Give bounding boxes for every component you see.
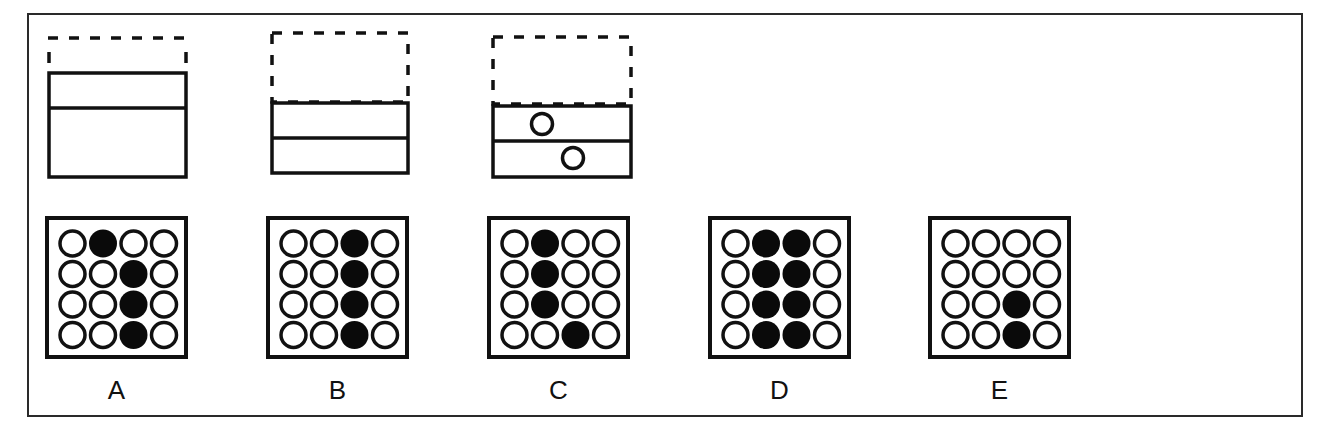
circle-row-2 [563,148,584,169]
filled-dot [783,260,811,288]
filled-dot [783,230,811,258]
stimulus-figure-2 [272,33,408,173]
option-label: A [108,375,126,405]
empty-dot [1035,323,1060,348]
empty-dot [974,231,999,256]
option-e[interactable]: E [930,218,1069,405]
empty-dot [1035,262,1060,287]
filled-dot [120,260,148,288]
empty-dot [594,262,619,287]
filled-dot [752,291,780,319]
empty-dot [373,262,398,287]
empty-dot [502,262,527,287]
filled-dot [562,321,590,349]
empty-dot [1004,231,1029,256]
filled-dot [341,260,369,288]
empty-dot [91,292,116,317]
empty-dot [312,292,337,317]
empty-dot [502,323,527,348]
empty-dot [60,323,85,348]
empty-dot [1035,231,1060,256]
filled-dot [531,230,559,258]
empty-dot [723,292,748,317]
empty-dot [974,323,999,348]
empty-dot [974,262,999,287]
empty-dot [943,292,968,317]
empty-dot [281,292,306,317]
option-a[interactable]: A [47,218,186,405]
filled-dot [89,230,117,258]
option-label: E [991,375,1008,405]
filled-dot [1003,321,1031,349]
empty-dot [312,231,337,256]
empty-dot [815,231,840,256]
empty-dot [60,262,85,287]
empty-dot [373,231,398,256]
empty-dot [723,323,748,348]
empty-dot [281,231,306,256]
empty-dot [60,231,85,256]
empty-dot [1004,262,1029,287]
empty-dot [815,292,840,317]
filled-dot [120,321,148,349]
empty-dot [943,262,968,287]
empty-dot [533,323,558,348]
filled-dot [341,291,369,319]
empty-dot [312,323,337,348]
empty-dot [723,262,748,287]
empty-dot [815,262,840,287]
stimulus-figure-3 [493,37,631,177]
filled-dot [752,260,780,288]
dashed-box [493,37,631,104]
circle-row-1 [532,114,553,135]
solid-box [49,73,186,177]
empty-dot [152,231,177,256]
option-label: B [329,375,346,405]
empty-dot [373,323,398,348]
option-label: C [549,375,568,405]
empty-dot [594,231,619,256]
empty-dot [943,323,968,348]
filled-dot [752,230,780,258]
filled-dot [783,291,811,319]
empty-dot [312,262,337,287]
option-label: D [770,375,789,405]
empty-dot [91,262,116,287]
empty-dot [60,292,85,317]
empty-dot [815,323,840,348]
stimulus-figure-1 [48,38,187,177]
filled-dot [531,260,559,288]
filled-dot [341,230,369,258]
filled-dot [783,321,811,349]
filled-dot [341,321,369,349]
empty-dot [723,231,748,256]
empty-dot [974,292,999,317]
empty-dot [152,262,177,287]
option-b[interactable]: B [268,218,407,405]
option-c[interactable]: C [489,218,628,405]
filled-dot [120,291,148,319]
filled-dot [1003,291,1031,319]
empty-dot [152,323,177,348]
puzzle-canvas: ABCDE [0,0,1320,442]
empty-dot [281,262,306,287]
empty-dot [502,292,527,317]
empty-dot [563,292,588,317]
empty-dot [91,323,116,348]
option-d[interactable]: D [710,218,849,405]
empty-dot [563,231,588,256]
empty-dot [594,292,619,317]
empty-dot [502,231,527,256]
empty-dot [563,262,588,287]
filled-dot [752,321,780,349]
dashed-box [272,33,408,102]
empty-dot [1035,292,1060,317]
empty-dot [943,231,968,256]
empty-dot [152,292,177,317]
empty-dot [281,323,306,348]
empty-dot [121,231,146,256]
answer-options: ABCDE [47,218,1069,405]
empty-dot [373,292,398,317]
empty-dot [594,323,619,348]
filled-dot [531,291,559,319]
